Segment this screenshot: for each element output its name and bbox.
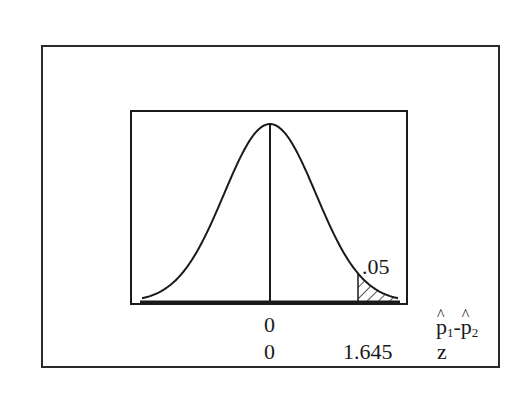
p2-hat: ^p xyxy=(461,316,472,338)
p1-hat: ^p xyxy=(436,316,447,338)
z-axis-label: z xyxy=(437,341,447,363)
tail-area-label: .05 xyxy=(362,256,390,278)
z-axis-critical-value: 1.645 xyxy=(343,341,393,363)
z-axis-zero: 0 xyxy=(264,341,275,363)
phat-axis-zero: 0 xyxy=(264,314,275,336)
phat-difference-axis-label: ^p1-^p2 xyxy=(436,316,478,339)
